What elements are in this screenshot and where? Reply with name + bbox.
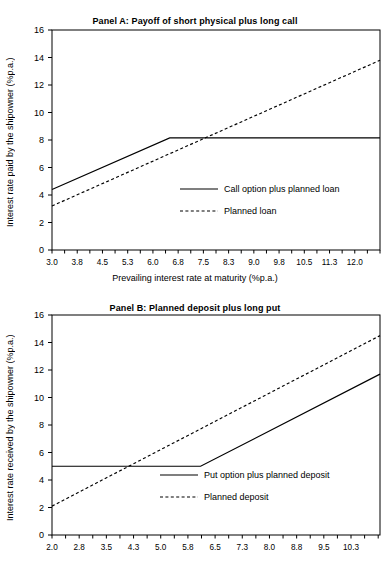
- y-tick-label: 16: [34, 310, 44, 320]
- x-tick-label: 9.5: [318, 543, 330, 552]
- series-line-1: [52, 374, 380, 466]
- y-tick-label: 2: [39, 218, 44, 228]
- panel-a-svg: 02468101214163.03.84.55.36.06.87.58.39.0…: [52, 30, 380, 250]
- legend-label-2: Planned deposit: [204, 492, 269, 502]
- y-tick-label: 14: [34, 338, 44, 348]
- y-tick-label: 12: [34, 365, 44, 375]
- x-tick-label: 12.0: [347, 258, 363, 267]
- legend-label-1: Put option plus planned deposit: [204, 470, 330, 480]
- y-tick-label: 0: [39, 530, 44, 540]
- x-tick-label: 9.8: [273, 258, 285, 267]
- x-tick-label: 7.3: [237, 543, 249, 552]
- series-line-2: [52, 336, 380, 507]
- panel-a-title: Panel A: Payoff of short physical plus l…: [0, 16, 390, 26]
- x-tick-label: 7.5: [198, 258, 210, 267]
- x-tick-label: 4.5: [97, 258, 109, 267]
- legend-label-2: Planned loan: [224, 206, 277, 216]
- panel-b-plot-area: 02468101214162.02.83.54.35.05.86.57.38.0…: [52, 315, 380, 535]
- x-tick-label: 5.0: [155, 543, 167, 552]
- panel-a-plot-area: 02468101214163.03.84.55.36.06.87.58.39.0…: [52, 30, 380, 250]
- x-tick-label: 11.3: [322, 258, 338, 267]
- y-tick-label: 12: [34, 80, 44, 90]
- y-tick-label: 6: [39, 163, 44, 173]
- x-tick-label: 6.0: [147, 258, 159, 267]
- y-tick-label: 6: [39, 448, 44, 458]
- x-tick-label: 4.3: [128, 543, 140, 552]
- panel-b: Panel B: Planned deposit plus long put I…: [0, 285, 390, 570]
- y-tick-label: 16: [34, 25, 44, 35]
- y-tick-label: 8: [39, 135, 44, 145]
- x-tick-label: 3.8: [72, 258, 84, 267]
- y-tick-label: 2: [39, 503, 44, 513]
- panel-a-y-axis-label: Interest rate paid by the shipowner (%p.…: [5, 35, 15, 250]
- legend-label-1: Call option plus planned loan: [224, 184, 340, 194]
- y-tick-label: 4: [39, 190, 44, 200]
- panel-b-title: Panel B: Planned deposit plus long put: [0, 303, 390, 313]
- x-tick-label: 6.8: [172, 258, 184, 267]
- x-tick-label: 5.3: [122, 258, 134, 267]
- y-tick-label: 10: [34, 393, 44, 403]
- x-tick-label: 10.5: [296, 258, 312, 267]
- x-tick-label: 9.0: [248, 258, 260, 267]
- x-tick-label: 3.5: [101, 543, 113, 552]
- x-tick-label: 8.0: [264, 543, 276, 552]
- x-tick-label: 10.3: [343, 543, 359, 552]
- panel-a-x-axis-label: Prevailing interest rate at maturity (%p…: [0, 273, 390, 283]
- x-tick-label: 2.0: [46, 543, 58, 552]
- y-tick-label: 0: [39, 245, 44, 255]
- panel-b-y-axis-label: Interest rate received by the shipowner …: [5, 320, 15, 535]
- figure-page: Panel A: Payoff of short physical plus l…: [0, 0, 390, 570]
- y-tick-label: 10: [34, 108, 44, 118]
- x-tick-label: 6.5: [209, 543, 221, 552]
- x-tick-label: 2.8: [73, 543, 85, 552]
- series-line-1: [52, 138, 380, 190]
- x-tick-label: 8.3: [223, 258, 235, 267]
- y-tick-label: 4: [39, 475, 44, 485]
- y-tick-label: 14: [34, 53, 44, 63]
- panel-b-svg: 02468101214162.02.83.54.35.05.86.57.38.0…: [52, 315, 380, 535]
- y-tick-label: 8: [39, 420, 44, 430]
- x-tick-label: 5.8: [182, 543, 194, 552]
- panel-a: Panel A: Payoff of short physical plus l…: [0, 0, 390, 285]
- x-tick-label: 3.0: [46, 258, 58, 267]
- x-tick-label: 8.8: [291, 543, 303, 552]
